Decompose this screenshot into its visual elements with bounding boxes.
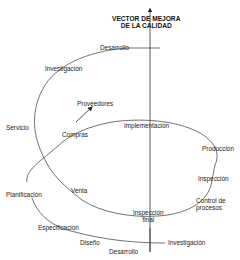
label-inspeccion: Inspección bbox=[198, 176, 229, 183]
title-line-1: VECTOR DE MEJORA bbox=[112, 15, 180, 22]
label-especificacion: Especificación bbox=[38, 225, 79, 232]
label-proveedores: Proveedores bbox=[77, 101, 113, 108]
label-inspeccion-final: Inspección final bbox=[133, 210, 164, 223]
label-servicio: Servicio bbox=[6, 125, 29, 132]
label-investigacion-top: Investigación bbox=[45, 66, 82, 73]
diagram-title: VECTOR DE MEJORA DE LA CALIDAD bbox=[112, 15, 180, 30]
label-implementacion: Implementación bbox=[124, 123, 169, 130]
supplier-arrow bbox=[76, 108, 91, 122]
label-produccion: Producción bbox=[202, 146, 234, 153]
label-desarrollo-bottom: Desarrollo bbox=[109, 249, 138, 256]
label-desarrollo-top: Desarrollo bbox=[100, 45, 129, 52]
label-planificacion: Planificación bbox=[6, 192, 42, 199]
label-investigacion-bottom: Investigación bbox=[168, 240, 205, 247]
quality-spiral-diagram: VECTOR DE MEJORA DE LA CALIDAD Desarroll… bbox=[0, 0, 240, 260]
diagram-lines bbox=[0, 0, 240, 260]
label-compras: Compras bbox=[62, 132, 88, 139]
label-control-de-procesos: Control de procesos bbox=[196, 198, 226, 211]
control-line-2: procesos bbox=[196, 205, 226, 212]
label-diseno: Diseño bbox=[80, 240, 100, 247]
label-venta: Venta bbox=[71, 188, 87, 195]
inspeccion-final-line-2: final bbox=[133, 217, 164, 224]
title-line-2: DE LA CALIDAD bbox=[112, 22, 180, 29]
